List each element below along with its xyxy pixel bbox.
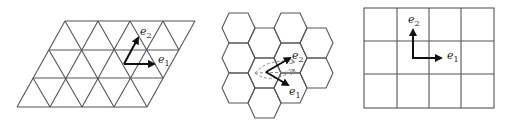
e2-arrow-icon bbox=[124, 38, 138, 64]
square-lattice-panel: e2 e1 bbox=[364, 8, 494, 108]
e1-label: e1 bbox=[447, 49, 459, 64]
e1-label: e1 bbox=[289, 85, 301, 100]
e2-arrow-icon bbox=[266, 58, 290, 72]
hexagonal-lattice-panel: e2 e1 bbox=[222, 13, 333, 118]
e1-label: e1 bbox=[158, 53, 170, 68]
square-basis-vectors: e2 e1 bbox=[408, 13, 459, 64]
e2-label: e2 bbox=[292, 49, 304, 64]
triangular-basis-vectors: e1 e2 bbox=[124, 25, 170, 68]
lattice-figure: e1 e2 e2 bbox=[0, 0, 512, 120]
hexagonal-dashed-vectors bbox=[255, 61, 296, 78]
triangular-lattice-panel: e1 e2 bbox=[17, 21, 195, 107]
e2-label: e2 bbox=[408, 13, 420, 28]
e2-label: e2 bbox=[140, 25, 152, 40]
